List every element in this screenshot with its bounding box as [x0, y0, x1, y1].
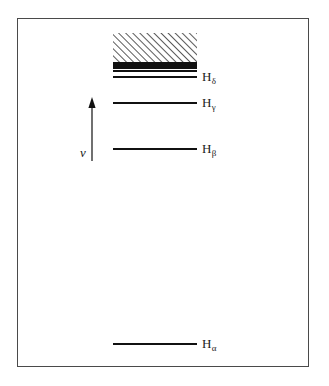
frequency-axis-arrowhead	[88, 97, 95, 108]
balmer-series-figure: Hδ Hγ Hβ Hα ν	[0, 0, 329, 386]
spectrum-plot-area	[0, 0, 329, 386]
label-h-alpha: Hα	[202, 337, 217, 353]
label-h-gamma-sub: γ	[211, 102, 215, 112]
label-h-delta-sub: δ	[211, 76, 216, 86]
frequency-axis-label: ν	[80, 146, 86, 159]
label-h-beta-sub: β	[211, 148, 216, 158]
label-h-alpha-sub: α	[211, 343, 216, 353]
label-h-alpha-base: H	[202, 336, 211, 351]
continuum-hatched-region	[113, 33, 197, 62]
label-h-gamma: Hγ	[202, 96, 216, 112]
label-h-gamma-base: H	[202, 95, 211, 110]
label-h-delta: Hδ	[202, 70, 216, 86]
label-h-delta-base: H	[202, 69, 211, 84]
label-h-beta: Hβ	[202, 142, 216, 158]
label-h-beta-base: H	[202, 141, 211, 156]
